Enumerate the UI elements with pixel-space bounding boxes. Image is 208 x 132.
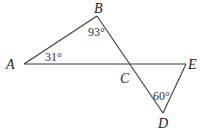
point-label-A: A xyxy=(5,57,15,72)
angle-label-D: 60° xyxy=(153,89,170,103)
point-label-B: B xyxy=(94,1,103,16)
point-label-C: C xyxy=(120,71,130,86)
angle-label-B: 93° xyxy=(88,25,105,39)
geometry-diagram: A B C D E 31° 93° 60° xyxy=(0,0,208,132)
point-label-E: E xyxy=(187,57,197,72)
angle-label-A: 31° xyxy=(45,50,62,64)
point-label-D: D xyxy=(157,116,168,131)
